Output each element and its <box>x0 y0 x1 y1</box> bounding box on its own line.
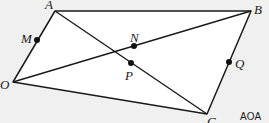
point-P <box>128 60 134 66</box>
label-P: P <box>125 69 133 82</box>
label-B: B <box>254 3 262 16</box>
label-M: M <box>21 32 32 45</box>
label-C: C <box>207 115 216 123</box>
label-A: A <box>45 0 53 11</box>
point-M <box>34 37 40 43</box>
label-Q: Q <box>235 57 244 70</box>
geometry-diagram <box>0 0 269 123</box>
label-O: O <box>0 78 9 91</box>
point-Q <box>226 59 232 65</box>
credit-text: AOA <box>240 112 261 122</box>
label-N: N <box>130 31 139 44</box>
